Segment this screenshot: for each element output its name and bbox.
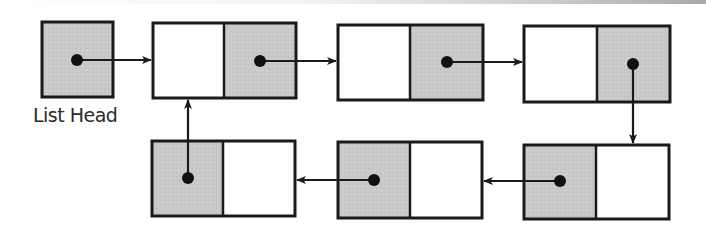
pointer-dot-icon — [254, 55, 266, 67]
data-cell — [223, 141, 295, 216]
pointer-dot-icon — [368, 174, 380, 186]
list-node — [524, 26, 670, 102]
data-cell — [338, 25, 410, 100]
pointer-dot-icon — [71, 54, 83, 66]
list-node — [152, 141, 295, 216]
pointer-dot-icon — [441, 56, 453, 68]
list-head-label: List Head — [33, 104, 117, 126]
pointer-dot-icon — [182, 172, 194, 184]
data-cell — [153, 23, 224, 98]
data-cell — [524, 26, 597, 102]
data-cell — [596, 145, 669, 219]
pointer-dot-icon — [627, 58, 639, 70]
data-cell — [410, 142, 482, 218]
pointer-dot-icon — [554, 175, 566, 187]
